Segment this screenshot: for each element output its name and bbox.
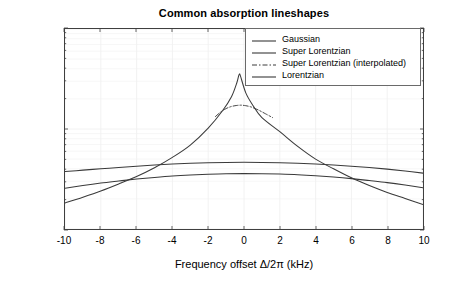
x-tick-label: -4 xyxy=(152,235,192,246)
x-tick-label: 2 xyxy=(260,235,300,246)
legend[interactable]: GaussianSuper LorentzianSuper Lorentzian… xyxy=(245,28,421,86)
x-tick-label: -2 xyxy=(188,235,228,246)
legend-line-swatch xyxy=(251,69,277,81)
x-tick-label: -6 xyxy=(116,235,156,246)
legend-item[interactable]: Super Lorentzian xyxy=(251,45,416,57)
legend-item[interactable]: Gaussian xyxy=(251,33,416,45)
legend-line-swatch xyxy=(251,45,277,57)
legend-item[interactable]: Super Lorentzian (interpolated) xyxy=(251,57,416,69)
x-tick-label: 10 xyxy=(404,235,444,246)
series-line-1 xyxy=(65,174,423,189)
x-tick-label: 4 xyxy=(296,235,336,246)
series-line-2 xyxy=(65,74,423,205)
series-line-3 xyxy=(215,105,272,117)
legend-line-swatch xyxy=(251,57,277,69)
legend-item-label: Gaussian xyxy=(282,33,320,45)
legend-item-label: Super Lorentzian xyxy=(282,45,351,57)
x-axis-label: Frequency offset Δ/2π (kHz) xyxy=(64,258,424,271)
legend-item[interactable]: Lorentzian xyxy=(251,69,416,81)
legend-item-label: Super Lorentzian (interpolated) xyxy=(282,57,406,69)
series-line-4 xyxy=(65,162,423,173)
x-tick-label: 6 xyxy=(332,235,372,246)
legend-item-label: Lorentzian xyxy=(282,69,324,81)
x-tick-label: -10 xyxy=(44,235,84,246)
legend-line-swatch xyxy=(251,33,277,45)
x-tick-label: 0 xyxy=(224,235,264,246)
figure-canvas: Common absorption lineshapes Lineshape v… xyxy=(0,0,450,285)
x-tick-label: -8 xyxy=(80,235,120,246)
x-tick-label: 8 xyxy=(368,235,408,246)
chart-title: Common absorption lineshapes xyxy=(64,7,424,20)
